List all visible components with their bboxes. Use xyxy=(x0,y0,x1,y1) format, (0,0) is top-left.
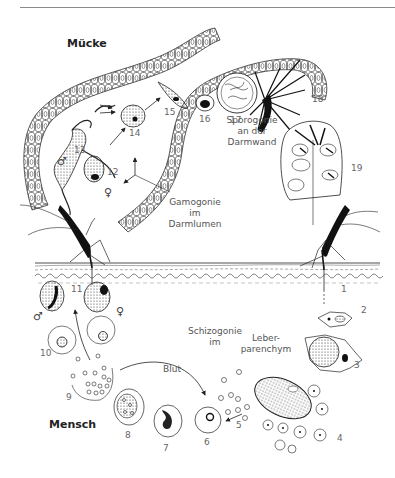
stage-number-4: 4 xyxy=(337,433,343,443)
stage-12-macrogamete xyxy=(84,156,104,182)
stage-10-gametocytes xyxy=(48,316,115,354)
label-sporogony: Sporogonie an der Darmwand xyxy=(214,115,290,148)
stage-number-15: 15 xyxy=(164,107,175,117)
mosquito-left xyxy=(20,205,110,285)
stage-5-merozoites xyxy=(219,370,250,421)
stage-15-ookinete xyxy=(158,82,188,108)
stage-4-hepatocytes xyxy=(248,369,328,453)
stage-number-3: 3 xyxy=(354,360,360,370)
stage-number-1: 1 xyxy=(341,284,347,294)
stage-number-5: 5 xyxy=(236,420,242,430)
stage-number-12: 12 xyxy=(107,167,118,177)
stage-number-6: 6 xyxy=(204,437,210,447)
stage-17-oocyst xyxy=(217,73,257,113)
label-blood: Blut xyxy=(163,364,181,375)
host-label-human: Mensch xyxy=(49,418,96,431)
stage-19-salivary-gland xyxy=(281,121,342,225)
stage-number-8: 8 xyxy=(125,430,131,440)
stage-9-merozoites xyxy=(71,354,113,400)
stage-number-14: 14 xyxy=(129,128,140,138)
female-symbol-human: ♀ xyxy=(116,305,124,318)
label-gamogony: Gamogonie im Darmlumen xyxy=(157,197,233,230)
stage-number-2: 2 xyxy=(361,305,367,315)
stage-number-19: 19 xyxy=(351,163,362,173)
skin-layer xyxy=(35,263,383,283)
stage-14-zygote xyxy=(95,98,160,145)
stage-number-16: 16 xyxy=(199,114,210,124)
stage-6-ring-stage xyxy=(195,407,221,433)
stage-2-liver-cell xyxy=(318,312,352,327)
host-label-mosquito: Mücke xyxy=(67,37,107,50)
female-symbol-mosquito: ♀ xyxy=(104,186,112,199)
stage-number-17: 17 xyxy=(230,115,241,125)
stage-16-young-oocyst xyxy=(196,95,214,111)
stage-number-10: 10 xyxy=(40,348,51,358)
male-symbol-mosquito: ♂ xyxy=(57,155,67,168)
stage-8-schizont xyxy=(114,389,144,425)
stage-number-9: 9 xyxy=(66,392,72,402)
label-liver-parenchyma: Leber- parenchym xyxy=(236,333,296,355)
mosquito-right xyxy=(300,205,380,290)
stage-number-18: 18 xyxy=(312,94,323,104)
stage-number-11: 11 xyxy=(71,284,82,294)
stage-number-13: 13 xyxy=(74,145,85,155)
male-symbol-human: ♂ xyxy=(33,310,43,323)
life-cycle-illustration xyxy=(0,0,395,478)
stage-number-7: 7 xyxy=(163,443,169,453)
stage-7-trophozoite xyxy=(154,405,182,437)
